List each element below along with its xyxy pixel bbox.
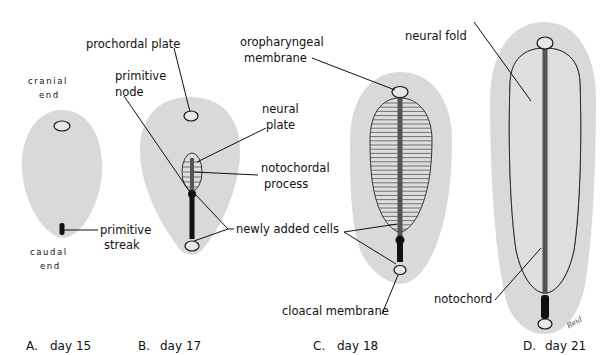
label-neural-plate-1: neural xyxy=(262,102,299,116)
prochordal-plate-day-17 xyxy=(184,111,198,121)
label-primitive-node-1: primitive xyxy=(115,69,166,83)
label-primitive: primitive xyxy=(100,223,151,237)
label-primitive-node-2: node xyxy=(115,85,144,99)
oropharyngeal-membrane-day-21 xyxy=(537,37,553,49)
notochord-day-21 xyxy=(543,48,548,294)
caption-day-18: day 18 xyxy=(337,339,378,353)
label-newly-added-cells: newly added cells xyxy=(236,222,339,236)
label-membrane: membrane xyxy=(244,51,307,65)
label-notochordal-process-1: notochordal xyxy=(261,161,330,175)
primitive-streak-day-17 xyxy=(190,195,195,239)
label-notochord: notochord xyxy=(434,292,492,306)
caption-day-15: day 15 xyxy=(50,339,91,353)
caption-letter-b: B. xyxy=(138,339,150,353)
panel-c-day-18: oropharyngeal membrane cloacal membrane … xyxy=(240,35,452,353)
label-caudal: caudal xyxy=(30,247,68,257)
caption-letter-c: C. xyxy=(313,339,325,353)
cloacal-membrane-day-21 xyxy=(538,319,552,329)
caption-day-17: day 17 xyxy=(160,339,201,353)
label-caudal-end: end xyxy=(40,261,61,271)
notochordal-process-day-17 xyxy=(190,158,194,190)
label-cranial: cranial xyxy=(28,76,68,86)
oropharyngeal-membrane-day-18 xyxy=(392,87,408,98)
caption-day-21: day 21 xyxy=(545,339,586,353)
cloacal-membrane-day-17 xyxy=(185,241,199,251)
prochordal-plate-day-15 xyxy=(54,121,70,131)
label-prochordal-plate: prochordal plate xyxy=(86,37,180,51)
cloacal-membrane-day-18 xyxy=(394,266,406,275)
panel-a-day-15: cranial end caudal end primitive streak … xyxy=(22,76,151,353)
label-neural-fold: neural fold xyxy=(405,29,467,43)
notochordal-process-day-18 xyxy=(398,98,403,236)
label-streak: streak xyxy=(104,238,140,252)
label-cranial-end: end xyxy=(39,90,60,100)
primitive-streak-day-15 xyxy=(60,223,65,235)
primitive-streak-day-18 xyxy=(397,240,403,262)
caption-letter-d: D. xyxy=(523,339,536,353)
label-cloacal-membrane: cloacal membrane xyxy=(282,304,389,318)
primitive-streak-day-21 xyxy=(541,295,549,319)
embryo-development-figure: cranial end caudal end primitive streak … xyxy=(0,0,611,355)
label-neural-plate-2: plate xyxy=(266,118,295,132)
label-notochordal-process-2: process xyxy=(264,177,308,191)
leader-oropharyngeal-membrane xyxy=(312,58,395,90)
label-oropharyngeal: oropharyngeal xyxy=(240,35,324,49)
caption-letter-a: A. xyxy=(26,339,38,353)
